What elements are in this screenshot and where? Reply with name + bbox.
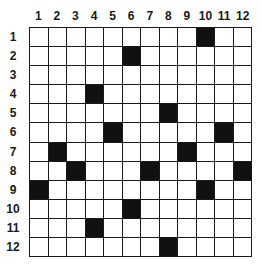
white-cell — [234, 238, 252, 256]
white-cell — [215, 219, 233, 237]
black-cell — [234, 162, 252, 180]
puzzle-grid — [29, 27, 252, 257]
white-cell — [215, 104, 233, 122]
white-cell — [197, 66, 215, 84]
white-cell — [197, 162, 215, 180]
white-cell — [197, 123, 215, 141]
white-cell — [67, 66, 85, 84]
white-cell — [178, 200, 196, 218]
column-label: 5 — [104, 10, 122, 22]
white-cell — [104, 181, 122, 199]
column-label: 4 — [85, 10, 103, 22]
white-cell — [104, 47, 122, 65]
white-cell — [141, 181, 159, 199]
row-label: 12 — [2, 241, 24, 253]
white-cell — [141, 104, 159, 122]
white-cell — [49, 47, 67, 65]
white-cell — [178, 238, 196, 256]
white-cell — [160, 181, 178, 199]
white-cell — [178, 28, 196, 46]
white-cell — [178, 66, 196, 84]
white-cell — [215, 143, 233, 161]
column-label: 8 — [159, 10, 177, 22]
column-label: 2 — [48, 10, 66, 22]
white-cell — [86, 181, 104, 199]
white-cell — [197, 219, 215, 237]
white-cell — [49, 162, 67, 180]
column-label: 10 — [197, 10, 215, 22]
white-cell — [30, 143, 48, 161]
column-label: 12 — [234, 10, 252, 22]
white-cell — [197, 104, 215, 122]
white-cell — [160, 28, 178, 46]
white-cell — [160, 219, 178, 237]
white-cell — [234, 123, 252, 141]
column-label: 1 — [29, 10, 47, 22]
white-cell — [178, 162, 196, 180]
white-cell — [104, 104, 122, 122]
black-cell — [123, 200, 141, 218]
white-cell — [215, 181, 233, 199]
white-cell — [67, 200, 85, 218]
black-cell — [30, 181, 48, 199]
white-cell — [215, 85, 233, 103]
row-label: 11 — [2, 222, 24, 234]
white-cell — [86, 162, 104, 180]
row-label: 9 — [2, 184, 24, 196]
white-cell — [178, 181, 196, 199]
white-cell — [30, 123, 48, 141]
white-cell — [141, 219, 159, 237]
white-cell — [104, 219, 122, 237]
white-cell — [160, 85, 178, 103]
white-cell — [104, 85, 122, 103]
white-cell — [30, 200, 48, 218]
white-cell — [104, 162, 122, 180]
black-cell — [86, 219, 104, 237]
white-cell — [67, 238, 85, 256]
white-cell — [234, 47, 252, 65]
white-cell — [123, 123, 141, 141]
grid-diagram: 123456789101112 123456789101112 — [0, 0, 262, 268]
white-cell — [215, 66, 233, 84]
row-label: 5 — [2, 107, 24, 119]
white-cell — [49, 181, 67, 199]
black-cell — [178, 143, 196, 161]
white-cell — [234, 181, 252, 199]
white-cell — [67, 47, 85, 65]
row-label: 4 — [2, 88, 24, 100]
column-label: 11 — [215, 10, 233, 22]
white-cell — [67, 104, 85, 122]
white-cell — [49, 28, 67, 46]
white-cell — [234, 219, 252, 237]
white-cell — [141, 200, 159, 218]
white-cell — [215, 162, 233, 180]
white-cell — [104, 143, 122, 161]
black-cell — [86, 85, 104, 103]
white-cell — [67, 28, 85, 46]
white-cell — [234, 85, 252, 103]
white-cell — [215, 238, 233, 256]
black-cell — [141, 162, 159, 180]
white-cell — [104, 28, 122, 46]
white-cell — [67, 181, 85, 199]
white-cell — [197, 143, 215, 161]
white-cell — [178, 219, 196, 237]
white-cell — [215, 28, 233, 46]
white-cell — [197, 238, 215, 256]
white-cell — [123, 85, 141, 103]
white-cell — [104, 66, 122, 84]
white-cell — [123, 238, 141, 256]
white-cell — [67, 219, 85, 237]
black-cell — [160, 238, 178, 256]
white-cell — [215, 200, 233, 218]
white-cell — [141, 238, 159, 256]
white-cell — [123, 66, 141, 84]
column-label: 7 — [141, 10, 159, 22]
white-cell — [178, 123, 196, 141]
white-cell — [123, 143, 141, 161]
white-cell — [30, 162, 48, 180]
white-cell — [49, 66, 67, 84]
column-label: 6 — [122, 10, 140, 22]
white-cell — [160, 162, 178, 180]
white-cell — [141, 123, 159, 141]
